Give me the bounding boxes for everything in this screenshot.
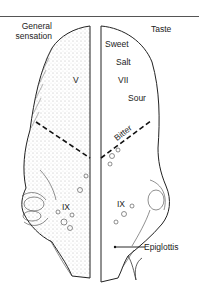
left-tongue-half [22,26,90,278]
taste-heading: Taste [151,24,171,34]
nerve-label-vii: VII [118,75,128,85]
general-sensation-heading: General sensation [4,21,52,41]
epiglottis-label: Epiglottis [144,242,179,252]
taste-label-salt: Salt [116,57,131,67]
taste-label-sweet: Sweet [105,39,129,49]
nerve-label-ix-right: IX [117,199,125,209]
heading-line-2: sensation [4,31,52,41]
epiglottis-shape [128,256,142,280]
heading-line-1: General [4,21,52,31]
taste-label-sour: Sour [128,93,146,103]
nerve-label-v: V [73,75,79,85]
nerve-label-ix-left: IX [62,202,70,212]
